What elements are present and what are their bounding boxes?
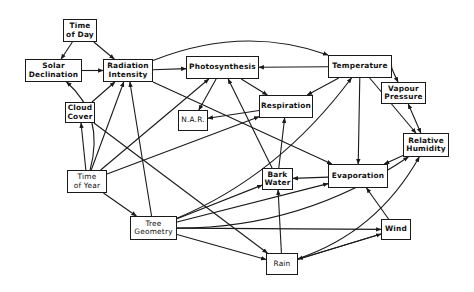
edge-time-of-day-to-radiation-intensity: [94, 42, 114, 59]
edge-time-of-year-to-solar-declination: [67, 82, 95, 170]
node-cloud-cover: Cloud Cover: [65, 102, 95, 123]
node-time-of-year: Time of Year: [67, 170, 107, 193]
edge-temperature-to-evaporation: [358, 78, 360, 164]
edge-time-of-year-to-tree-geometry: [103, 193, 136, 216]
edge-rain-to-bark-water: [278, 190, 281, 253]
node-wind: Wind: [381, 219, 411, 240]
edge-temperature-to-vapour-pressure: [392, 66, 398, 82]
node-tree-geometry: Tree Geometry: [130, 216, 177, 240]
edge-tree-geometry-to-rain: [177, 235, 266, 260]
edge-time-of-year-to-cloud-cover: [81, 123, 86, 170]
edge-time-of-day-to-solar-declination: [61, 42, 72, 59]
edge-tree-geometry-to-wind: [177, 228, 381, 229]
node-time-of-day: Time of Day: [63, 19, 97, 42]
node-respiration: Respiration: [259, 95, 313, 118]
edge-temperature-to-respiration: [307, 78, 338, 95]
node-bark-water: Bark Water: [262, 168, 293, 190]
edge-photosynthesis-to-nar: [199, 79, 216, 110]
edge-radiation-intensity-to-photosynthesis: [153, 69, 186, 70]
edge-tree-geometry-to-radiation-intensity: [130, 82, 152, 216]
edge-evaporation-to-bark-water: [293, 177, 328, 178]
edge-temperature-to-photosynthesis: [259, 67, 328, 68]
node-rain: Rain: [266, 253, 298, 275]
edge-rain-to-wind: [298, 234, 381, 259]
edge-bark-water-to-photosynthesis: [228, 79, 272, 168]
edge-respiration-to-nar: [208, 111, 259, 119]
edge-tree-geometry-to-bark-water: [177, 185, 262, 219]
node-nar: N.A.R.: [178, 110, 208, 131]
edge-vapour-pressure-to-relative-humidity: [408, 104, 421, 133]
edge-cloud-cover-to-radiation-intensity: [92, 82, 115, 102]
node-relative-humidity: Relative Humidity: [403, 133, 449, 157]
edge-photosynthesis-to-respiration: [241, 79, 267, 95]
node-radiation-intensity: Radiation Intensity: [103, 59, 153, 82]
node-evaporation: Evaporation: [328, 164, 388, 188]
edge-cloud-cover-to-rain: [94, 123, 267, 253]
edge-bark-water-to-respiration: [279, 118, 285, 168]
node-solar-declination: Solar Declination: [25, 59, 82, 82]
edge-time-of-year-to-radiation-intensity: [91, 82, 124, 170]
node-temperature: Temperature: [328, 55, 392, 78]
node-photosynthesis: Photosynthesis: [186, 56, 259, 79]
node-vapour-pressure: Vapour Pressure: [381, 82, 426, 104]
